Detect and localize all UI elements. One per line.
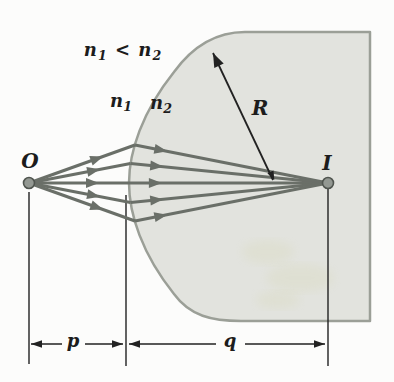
object-point-label: O: [21, 151, 38, 171]
object-point-dot: [24, 178, 35, 189]
dim-p-arrowhead-right: [112, 340, 123, 348]
ray-1-incident-arrowhead: [89, 156, 103, 165]
ray-3-incident-arrowhead: [86, 178, 99, 188]
dim-q-arrowhead-right: [314, 340, 325, 348]
scan-artifact-1: [242, 240, 294, 264]
object-distance-label: p: [67, 332, 80, 350]
medium2-index-label: n2: [150, 94, 172, 115]
image-distance-label: q: [224, 332, 237, 350]
index-relation-label: n1 < n2: [84, 41, 162, 62]
radius-label: R: [252, 98, 269, 118]
ray-1-incident: [29, 145, 135, 183]
refraction-diagram: n1 < n2 n1 n2 R O I p q: [0, 0, 394, 382]
image-point-dot: [323, 178, 334, 189]
image-point-label: I: [322, 153, 331, 173]
ray-5-incident-arrowhead: [89, 201, 103, 210]
medium1-index-label: n1: [110, 92, 132, 113]
ray-5-incident: [29, 183, 135, 221]
diagram-svg: [0, 0, 394, 382]
dim-p-arrowhead-left: [31, 340, 42, 348]
scan-artifact-2: [266, 264, 334, 292]
scan-artifact-3: [256, 291, 300, 309]
dim-q-arrowhead-left: [129, 340, 140, 348]
